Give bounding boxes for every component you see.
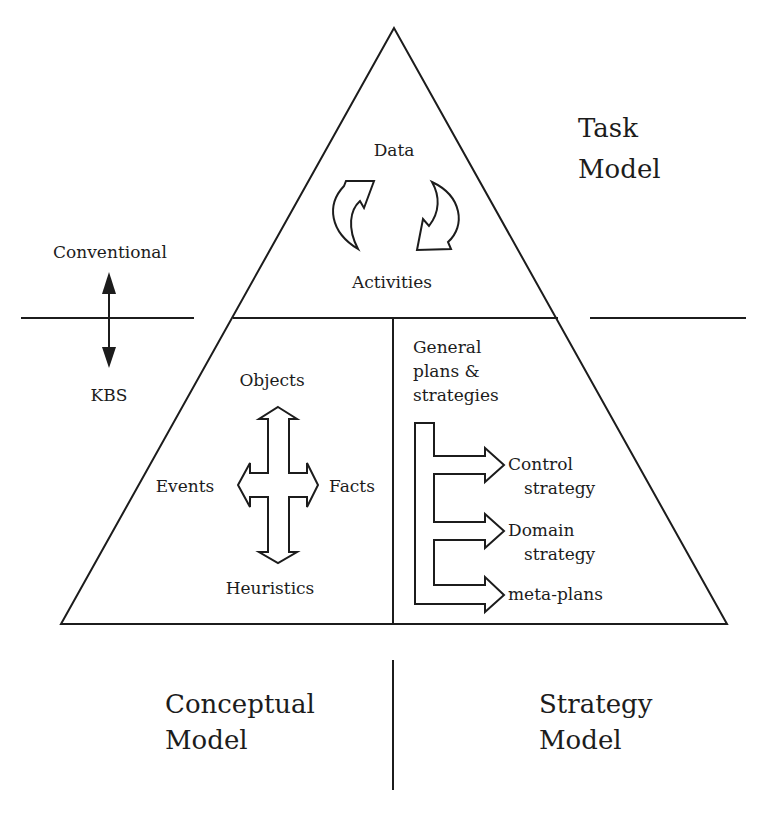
events-label: Events xyxy=(156,476,215,496)
activities-label: Activities xyxy=(351,272,432,292)
pyramid-diagram: Data Activities Task Model Conventional … xyxy=(0,0,771,823)
objects-label: Objects xyxy=(239,370,304,390)
strategy-header-line3: strategies xyxy=(413,385,499,405)
four-way-arrow-icon xyxy=(238,407,318,563)
cycle-arrows-icon xyxy=(333,181,459,250)
branch-control-line2: strategy xyxy=(524,478,596,498)
branching-arrow-icon xyxy=(415,423,504,612)
conceptual-model-title-line2: Model xyxy=(165,725,248,755)
task-model-title-line2: Model xyxy=(578,154,661,184)
kbs-label: KBS xyxy=(91,385,128,405)
branch-domain-line1: Domain xyxy=(508,520,575,540)
strategy-header-line2: plans & xyxy=(413,361,480,381)
task-model-title-line1: Task xyxy=(578,113,638,143)
strategy-header-line1: General xyxy=(413,337,481,357)
strategy-model-title-line2: Model xyxy=(539,725,622,755)
branch-control-line1: Control xyxy=(508,454,573,474)
conceptual-model-title-line1: Conceptual xyxy=(165,689,315,719)
double-headed-vertical-arrow-icon xyxy=(102,272,116,368)
conventional-label: Conventional xyxy=(53,242,167,262)
data-label: Data xyxy=(374,140,415,160)
branch-metaplans-line1: meta-plans xyxy=(508,584,603,604)
heuristics-label: Heuristics xyxy=(226,578,315,598)
facts-label: Facts xyxy=(329,476,375,496)
branch-domain-line2: strategy xyxy=(524,544,596,564)
strategy-model-title-line1: Strategy xyxy=(539,689,653,719)
